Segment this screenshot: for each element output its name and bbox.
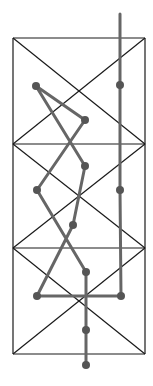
node-point — [117, 292, 125, 300]
node-points — [32, 81, 125, 369]
node-point — [69, 221, 77, 229]
node-point — [33, 186, 41, 194]
node-point — [82, 326, 90, 334]
node-point — [116, 81, 124, 89]
node-point — [116, 186, 124, 194]
knot-diagram — [0, 0, 153, 386]
node-point — [81, 116, 89, 124]
node-point — [33, 292, 41, 300]
node-point — [82, 361, 90, 369]
node-point — [81, 162, 89, 170]
node-point — [82, 268, 90, 276]
node-point — [32, 82, 40, 90]
